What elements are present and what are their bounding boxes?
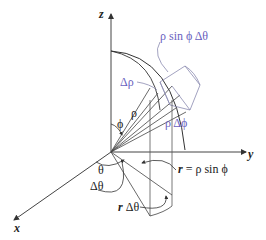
inner-arc xyxy=(111,51,160,110)
top-label-leader xyxy=(157,42,168,72)
delta-rho-label: Δρ xyxy=(120,76,134,88)
rho-delta-phi-label: ρ Δϕ xyxy=(165,117,187,129)
phi-label: ϕ xyxy=(117,118,123,130)
r-delta-theta-label: r Δθ xyxy=(118,201,139,213)
y-axis-label: y xyxy=(248,148,253,160)
r-leader xyxy=(142,160,176,170)
volume-element xyxy=(160,66,200,110)
delta-theta-label: Δθ xyxy=(90,180,103,192)
rho-sin-phi-dtheta-label: ρ sin ϕ Δθ xyxy=(160,30,208,42)
x-axis-label: x xyxy=(14,222,20,234)
spherical-coordinates-diagram: z y x ρ sin ϕ Δθ Δρ ρ ρ Δϕ ϕ θ Δθ r = ρ … xyxy=(0,0,266,240)
rho-label: ρ xyxy=(131,107,137,119)
z-axis-label: z xyxy=(99,8,104,20)
r-equation-label: r = ρ sin ϕ xyxy=(178,163,228,175)
theta-label: θ xyxy=(98,164,104,176)
